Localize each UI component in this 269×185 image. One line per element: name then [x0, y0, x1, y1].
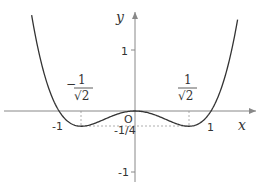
fraction-right-denominator: √2 [178, 89, 193, 103]
fraction-left-denominator: √2 [74, 89, 89, 103]
y-min-label: -1/4 [114, 124, 136, 137]
fraction-left-numerator: 1 [78, 73, 86, 87]
y-tick-label-neg1: -1 [118, 166, 129, 179]
y-tick-label-1: 1 [121, 45, 128, 58]
x-tick-label-neg1: -1 [52, 120, 63, 133]
fraction-one-over-root-two: 1 √2 [178, 73, 197, 103]
fraction-neg-one-over-root-two: − 1 √2 [66, 73, 93, 103]
function-graph: y x 1 -1 O -1/4 -1 1 − 1 √2 1 √2 [0, 0, 269, 185]
fraction-right-numerator: 1 [184, 73, 192, 87]
x-tick-label-1: 1 [207, 121, 214, 134]
x-axis-label: x [238, 117, 246, 133]
y-axis-label: y [115, 9, 125, 25]
